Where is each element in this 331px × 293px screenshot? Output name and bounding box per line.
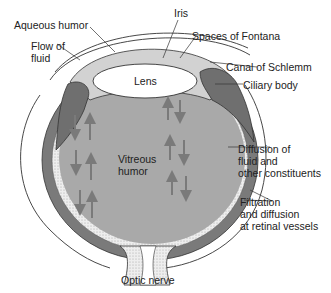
label-optic-nerve: Optic nerve bbox=[121, 274, 175, 286]
label-vitreous-humor: Vitreous humor bbox=[118, 153, 156, 177]
label-canal-of-schlemm: Canal of Schlemm bbox=[226, 61, 312, 73]
label-spaces-of-fontana: Spaces of Fontana bbox=[192, 30, 280, 42]
label-ciliary-body: Ciliary body bbox=[243, 79, 298, 91]
label-lens: Lens bbox=[134, 75, 157, 87]
label-iris: Iris bbox=[174, 7, 188, 19]
label-diffusion: Diffusion of fluid and other constituent… bbox=[238, 143, 321, 179]
label-aqueous-humor: Aqueous humor bbox=[14, 19, 88, 31]
label-flow-of-fluid: Flow of fluid bbox=[31, 40, 65, 64]
label-filtration: Filtration and diffusion at retinal vess… bbox=[240, 196, 318, 232]
